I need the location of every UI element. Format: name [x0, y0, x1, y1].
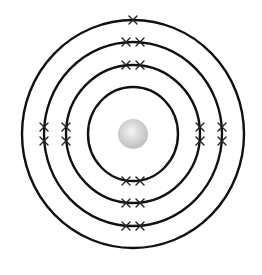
atom-canvas: [0, 0, 262, 275]
bohr-atom-diagram: [0, 0, 262, 275]
nucleus: [118, 119, 148, 149]
